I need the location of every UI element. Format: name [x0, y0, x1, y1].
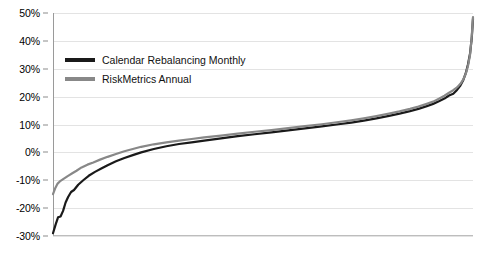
y-axis-tick-mark	[43, 13, 48, 14]
legend-item: Calendar Rebalancing Monthly	[65, 53, 246, 67]
y-axis: 50%40%30%20%10%0%-10%-20%-30%	[0, 0, 53, 256]
y-axis-tick-label: 50%	[19, 7, 40, 19]
gridline	[53, 236, 473, 237]
series-lines	[53, 13, 473, 236]
y-axis-tick-mark	[43, 236, 48, 237]
legend-label: Calendar Rebalancing Monthly	[102, 55, 246, 66]
y-axis-tick-label: -10%	[16, 174, 40, 186]
y-axis-tick-label: 10%	[19, 119, 40, 131]
y-axis-tick-mark	[43, 124, 48, 125]
chart-legend: Calendar Rebalancing MonthlyRiskMetrics …	[65, 53, 246, 86]
y-axis-tick-label: 0%	[25, 146, 40, 158]
y-axis-tick-label: -30%	[16, 230, 40, 242]
y-axis-tick-label: 20%	[19, 91, 40, 103]
y-axis-tick-mark	[43, 68, 48, 69]
legend-item: RiskMetrics Annual	[65, 72, 246, 86]
y-axis-tick-label: 40%	[19, 35, 40, 47]
legend-label: RiskMetrics Annual	[102, 74, 191, 85]
legend-swatch-icon	[65, 77, 95, 81]
y-axis-tick-label: -20%	[16, 202, 40, 214]
series-line	[53, 17, 473, 194]
series-line	[53, 19, 473, 234]
chart-container: 50%40%30%20%10%0%-10%-20%-30% Calendar R…	[0, 0, 495, 256]
legend-swatch-icon	[65, 58, 95, 62]
y-axis-tick-mark	[43, 208, 48, 209]
y-axis-tick-mark	[43, 180, 48, 181]
y-axis-tick-mark	[43, 40, 48, 41]
plot-area	[53, 13, 473, 236]
y-axis-tick-mark	[43, 152, 48, 153]
y-axis-tick-label: 30%	[19, 63, 40, 75]
y-axis-tick-mark	[43, 96, 48, 97]
